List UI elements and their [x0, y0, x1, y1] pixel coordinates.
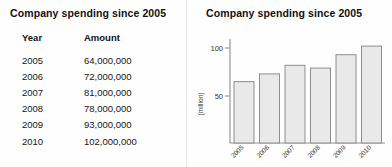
column-header-amount: Amount — [84, 32, 174, 52]
table-row: 2007 81,000,000 — [22, 84, 174, 100]
cell-year: 2006 — [22, 68, 84, 84]
cell-amount: 64,000,000 — [84, 52, 174, 68]
table-body: 2005 64,000,000 2006 72,000,000 2007 81,… — [22, 52, 174, 149]
chart-panel: Company spending since 2005 (million) 10… — [187, 0, 392, 167]
chart-title: Company spending since 2005 — [206, 7, 362, 19]
cell-amount: 102,000,000 — [84, 133, 174, 149]
bar-2009 — [336, 55, 356, 143]
bar-2006 — [260, 74, 280, 143]
x-tick-label-2008: 2008 — [306, 144, 322, 160]
x-tick-label-2009: 2009 — [331, 144, 347, 160]
x-tick-label-2007: 2007 — [280, 144, 296, 160]
cell-amount: 81,000,000 — [84, 84, 174, 100]
table-panel: Company spending since 2005 Year Amount … — [0, 0, 186, 167]
cell-year: 2007 — [22, 84, 84, 100]
y-tick-label-50: 50 — [215, 92, 223, 101]
x-tick-label-2005: 2005 — [229, 144, 245, 160]
cell-amount: 72,000,000 — [84, 68, 174, 84]
x-tick-label-2010: 2010 — [357, 144, 373, 160]
cell-year: 2010 — [22, 133, 84, 149]
bar-2008 — [311, 68, 331, 143]
bar-chart: (million) 100 50 2005 2006 2007 2008 200… — [187, 26, 392, 167]
cell-year: 2008 — [22, 101, 84, 117]
cell-year: 2005 — [22, 52, 84, 68]
table-row: 2006 72,000,000 — [22, 68, 174, 84]
table-row: 2005 64,000,000 — [22, 52, 174, 68]
y-axis-label: (million) — [197, 92, 205, 115]
bar-2007 — [285, 65, 305, 143]
x-tick-label-2006: 2006 — [255, 144, 271, 160]
cell-amount: 78,000,000 — [84, 101, 174, 117]
screenshot-root: Company spending since 2005 Year Amount … — [0, 0, 392, 167]
table-row: 2009 93,000,000 — [22, 117, 174, 133]
table-row: 2008 78,000,000 — [22, 101, 174, 117]
cell-year: 2009 — [22, 117, 84, 133]
cell-amount: 93,000,000 — [84, 117, 174, 133]
bar-2010 — [362, 46, 382, 143]
column-header-year: Year — [22, 32, 84, 52]
table-row: 2010 102,000,000 — [22, 133, 174, 149]
table-panel-title: Company spending since 2005 — [10, 7, 166, 19]
spending-table: Year Amount 2005 64,000,000 2006 72,000,… — [22, 32, 174, 149]
y-tick-label-100: 100 — [210, 44, 223, 53]
table-header-row: Year Amount — [22, 32, 174, 52]
bar-2005 — [234, 82, 254, 143]
